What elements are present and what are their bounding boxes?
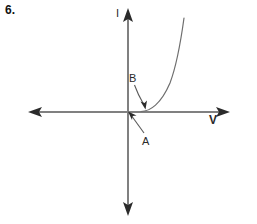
annotation-arrowhead-b-icon <box>141 101 148 110</box>
horizontal-axis-label: V <box>209 115 217 126</box>
problem-number-label: 6. <box>5 5 15 16</box>
vertical-axis-label: I <box>116 8 119 19</box>
iv-characteristic-figure: 6. I V B A <box>0 0 257 224</box>
point-label-b: B <box>129 73 136 84</box>
annotation-arrow-b <box>135 85 144 104</box>
point-label-a: A <box>142 136 149 147</box>
diode-curve <box>141 18 184 112</box>
figure-canvas <box>0 0 257 224</box>
annotation-arrow-a <box>131 115 144 133</box>
